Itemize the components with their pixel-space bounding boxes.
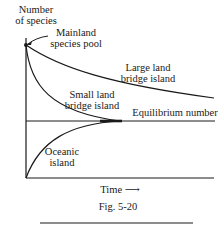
large-land-bridge-label: Large land bridge island [118, 62, 178, 84]
figure-caption: Fig. 5-20 [85, 201, 151, 212]
small-land-bridge-label: Small land bridge island [62, 89, 122, 111]
small-label-line1: Small land [62, 89, 122, 100]
oceanic-label: Oceanic island [42, 146, 82, 168]
y-axis-label-line2: of species [8, 15, 64, 26]
mainland-label: Mainland species pool [46, 27, 106, 49]
equilibrium-label: Equilibrium number [128, 107, 222, 118]
mainland-label-line2: species pool [46, 38, 106, 49]
y-axis-label-line1: Number [8, 4, 64, 15]
large-label-line1: Large land [118, 62, 178, 73]
x-axis-label-text: Time ⟶ [100, 184, 139, 195]
x-axis-label: Time ⟶ [90, 184, 150, 195]
mainland-label-line1: Mainland [46, 27, 106, 38]
equilibrium-text: Equilibrium number [128, 107, 222, 118]
oceanic-label-line2: island [42, 157, 82, 168]
y-axis-label: Number of species [8, 4, 64, 26]
large-label-line2: bridge island [118, 73, 178, 84]
small-label-line2: bridge island [62, 100, 122, 111]
oceanic-label-line1: Oceanic [42, 146, 82, 157]
figure-caption-text: Fig. 5-20 [99, 201, 138, 212]
